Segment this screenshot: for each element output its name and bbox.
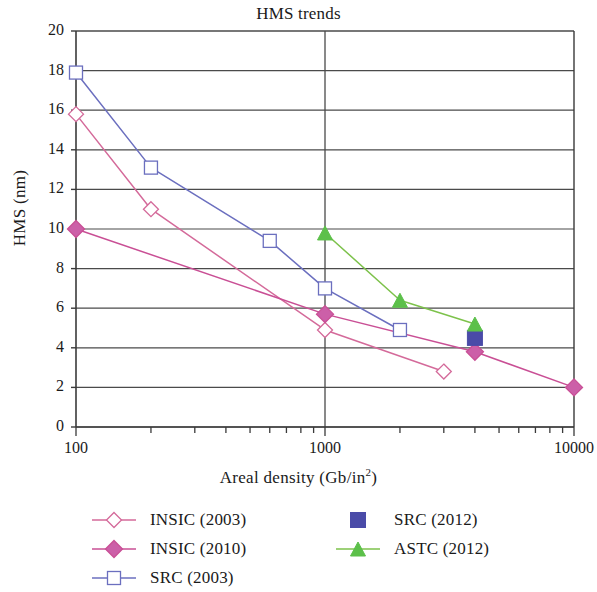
y-tick-label: 14 (30, 140, 64, 158)
data-point (318, 322, 333, 337)
legend-key-icon (330, 539, 386, 559)
legend-item[interactable]: INSIC (2003) (86, 505, 246, 534)
y-tick-label: 20 (30, 21, 64, 39)
legend-key-icon (86, 568, 142, 588)
y-tick-label: 10 (30, 219, 64, 237)
legend-key-icon (86, 539, 142, 559)
legend-item[interactable]: SRC (2003) (86, 563, 246, 592)
legend-label: SRC (2003) (142, 568, 234, 588)
y-tick-label: 8 (30, 259, 64, 277)
x-tick-label: 1000 (285, 439, 365, 457)
legend-label: SRC (2012) (386, 510, 478, 530)
legend-swatch (86, 539, 142, 559)
legend-item[interactable]: SRC (2012) (330, 505, 489, 534)
data-point (143, 202, 158, 217)
x-tick-label: 100 (36, 439, 116, 457)
legend-swatch (86, 510, 142, 530)
legend-column-1: INSIC (2003)INSIC (2010)SRC (2003) (86, 505, 246, 592)
series-line-2 (76, 73, 400, 330)
data-point (69, 107, 84, 122)
data-point (393, 323, 406, 336)
x-tick-label: 10000 (534, 439, 597, 457)
data-point (263, 234, 276, 247)
data-point (566, 379, 583, 396)
legend-marker (108, 571, 121, 584)
data-point (318, 226, 333, 240)
legend-label: INSIC (2010) (142, 539, 246, 559)
legend-swatch (86, 568, 142, 588)
y-tick-label: 16 (30, 100, 64, 118)
legend-column-2: SRC (2012)ASTC (2012) (330, 505, 489, 563)
y-tick-label: 4 (30, 338, 64, 356)
chart-legend: INSIC (2003)INSIC (2010)SRC (2003) SRC (… (0, 505, 597, 592)
legend-key-icon (86, 510, 142, 530)
data-point (70, 66, 83, 79)
legend-label: ASTC (2012) (386, 539, 489, 559)
data-point (436, 364, 451, 379)
data-point (319, 282, 332, 295)
legend-key-icon (330, 510, 386, 530)
data-point (467, 330, 482, 345)
legend-item[interactable]: INSIC (2010) (86, 534, 246, 563)
series-line-0 (76, 114, 444, 371)
data-point (467, 317, 482, 331)
legend-item[interactable]: ASTC (2012) (330, 534, 489, 563)
series-line-4 (325, 233, 475, 324)
data-point (144, 161, 157, 174)
y-tick-label: 12 (30, 179, 64, 197)
chart-figure: HMS trends HMS (nm) Areal density (Gb/in… (0, 0, 597, 592)
legend-marker (106, 540, 123, 557)
y-tick-label: 6 (30, 298, 64, 316)
y-tick-label: 0 (30, 417, 64, 435)
plot-area (0, 0, 597, 592)
data-point (68, 221, 85, 238)
legend-marker (107, 512, 122, 527)
legend-swatch (330, 510, 386, 530)
legend-swatch (330, 539, 386, 559)
legend-label: INSIC (2003) (142, 510, 246, 530)
y-tick-label: 2 (30, 377, 64, 395)
y-tick-label: 18 (30, 61, 64, 79)
legend-marker (351, 512, 366, 527)
